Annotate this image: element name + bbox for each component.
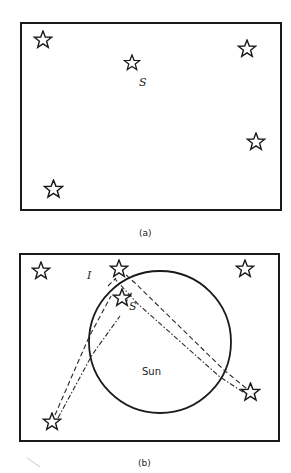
- panel-a-frame: [21, 23, 281, 210]
- star-icon: [32, 262, 49, 278]
- star-image-icon: [110, 260, 127, 276]
- star-label-s: S: [129, 300, 137, 313]
- star-icon: [34, 31, 51, 47]
- scan-artifact: [27, 458, 40, 467]
- star-label-s: S: [139, 76, 147, 89]
- panel-b: I S Sun (b): [20, 254, 279, 468]
- ray-left-outer: [55, 296, 111, 415]
- sun-disc: [89, 271, 231, 413]
- star-icon: [124, 55, 139, 70]
- caption-b: (b): [138, 458, 151, 468]
- star-icon: [238, 40, 255, 56]
- star-icon: [44, 180, 62, 197]
- caption-a: (a): [139, 228, 152, 238]
- star-icon: [43, 413, 60, 429]
- sun-label: Sun: [142, 366, 161, 377]
- light-rays: [55, 273, 246, 418]
- panel-a: S (a): [21, 23, 281, 238]
- star-icon: [247, 133, 264, 149]
- star-icon: [241, 383, 259, 400]
- star-icon: [236, 260, 253, 276]
- image-label-i: I: [86, 269, 92, 282]
- starfield-diagram: S (a) I S Sun (b): [0, 0, 291, 473]
